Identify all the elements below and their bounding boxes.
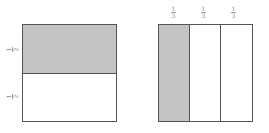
label-third-3: 1 3 (231, 6, 236, 19)
third-middle (190, 25, 221, 121)
denominator: 3 (232, 13, 236, 19)
denominator: 2 (13, 48, 19, 52)
denominator: 3 (172, 13, 176, 19)
denominator: 2 (13, 95, 19, 99)
half-bottom (23, 74, 116, 121)
label-third-2: 1 3 (201, 6, 206, 19)
thirds-square (158, 24, 253, 122)
third-left-shaded (159, 25, 190, 121)
label-half-top: 1 2 (6, 47, 19, 52)
half-top-shaded (23, 25, 116, 74)
label-third-1: 1 3 (171, 6, 176, 19)
third-right (221, 25, 252, 121)
label-half-bottom: 1 2 (6, 94, 19, 99)
halves-square (22, 24, 117, 122)
denominator: 3 (202, 13, 206, 19)
